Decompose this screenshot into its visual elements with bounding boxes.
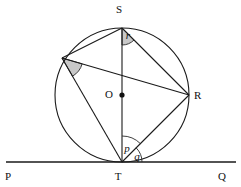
angle-label-r: r <box>126 29 131 41</box>
point-label-T: T <box>115 170 122 182</box>
centre-point-dot <box>119 92 124 97</box>
point-label-Q: Q <box>218 170 226 182</box>
point-label-R: R <box>194 89 202 101</box>
angle-label-p: p <box>123 142 130 154</box>
segment-UT <box>62 58 122 162</box>
point-label-P: P <box>5 170 11 182</box>
segment-TR <box>122 95 189 162</box>
point-label-S: S <box>116 3 122 15</box>
point-label-O: O <box>105 88 113 100</box>
geometry-canvas: S R T P Q O p q r <box>0 0 241 187</box>
segment-US <box>62 28 122 58</box>
geometry-figure: S R T P Q O p q r <box>0 0 241 187</box>
angle-label-q: q <box>134 150 140 162</box>
